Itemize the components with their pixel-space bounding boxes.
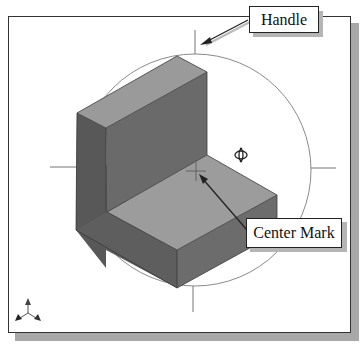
handle-leader-arrow <box>200 20 250 45</box>
center-mark-callout: Center Mark <box>246 218 342 248</box>
center-mark-callout-label: Center Mark <box>253 224 334 242</box>
handle-callout: Handle <box>249 6 319 33</box>
rotate-cursor-icon <box>235 148 247 162</box>
model-scene[interactable] <box>0 0 364 347</box>
handle-callout-label: Handle <box>261 11 307 29</box>
xyz-triad-icon <box>15 298 41 321</box>
l-bracket-model[interactable] <box>76 56 277 288</box>
